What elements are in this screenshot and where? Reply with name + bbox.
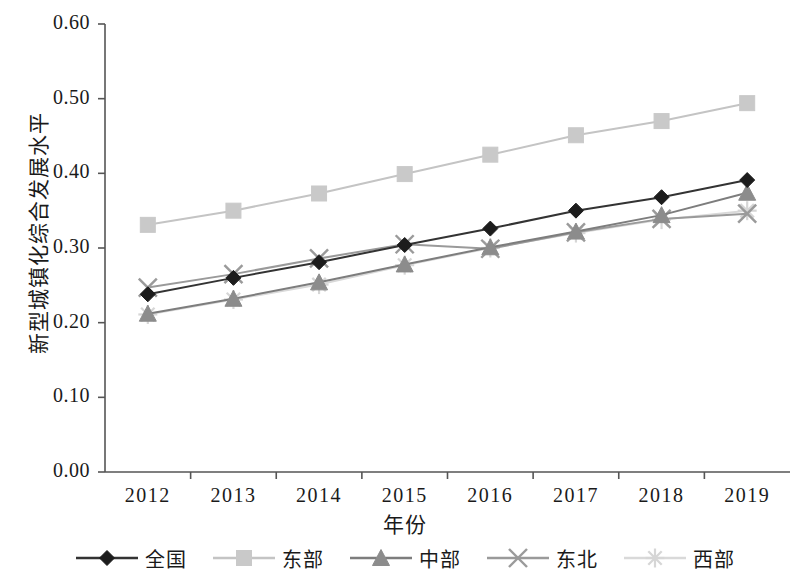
series-全国 (140, 173, 754, 302)
legend-entry-西部[interactable]: 西部 (624, 544, 735, 572)
x-tick-label: 2018 (617, 484, 707, 507)
x-tick-label: 2012 (103, 484, 193, 507)
y-tick-label: 0.40 (20, 160, 90, 183)
x-axis-ticks (191, 472, 705, 479)
y-tick-label: 0.60 (20, 11, 90, 34)
legend-marker-diamond-icon (76, 546, 138, 570)
legend-label: 中部 (419, 544, 461, 572)
axis-lines (105, 24, 790, 472)
x-tick-label: 2013 (188, 484, 278, 507)
x-tick-label: 2015 (360, 484, 450, 507)
x-tick-label: 2017 (531, 484, 621, 507)
x-axis-title: 年份 (0, 508, 810, 538)
chart-figure: 新型城镇化综合发展水平 年份 0.000.100.200.300.400.500… (0, 0, 810, 572)
legend-entry-东北[interactable]: 东北 (487, 544, 598, 572)
x-tick-label: 2016 (445, 484, 535, 507)
legend-label: 东部 (282, 544, 324, 572)
y-tick-label: 0.00 (20, 459, 90, 482)
y-tick-label: 0.30 (20, 235, 90, 258)
x-tick-label: 2014 (274, 484, 364, 507)
legend-marker-square-icon (213, 546, 275, 570)
legend-label: 东北 (556, 544, 598, 572)
y-axis-ticks (98, 24, 105, 472)
legend-entry-中部[interactable]: 中部 (350, 544, 461, 572)
legend-marker-x-icon (487, 546, 549, 570)
chart-legend: 全国东部中部东北西部 (0, 543, 810, 572)
y-tick-label: 0.50 (20, 86, 90, 109)
legend-entry-全国[interactable]: 全国 (76, 544, 187, 572)
legend-marker-asterisk-icon (624, 546, 686, 570)
legend-label: 全国 (145, 544, 187, 572)
legend-label: 西部 (693, 544, 735, 572)
legend-marker-triangle-icon (350, 546, 412, 570)
x-tick-label: 2019 (702, 484, 792, 507)
y-tick-label: 0.20 (20, 310, 90, 333)
legend-entry-东部[interactable]: 东部 (213, 544, 324, 572)
y-tick-label: 0.10 (20, 384, 90, 407)
